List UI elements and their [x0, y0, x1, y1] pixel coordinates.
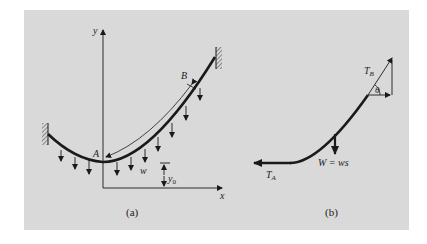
cable-curve — [48, 57, 215, 162]
caption-b: (b) — [325, 206, 338, 219]
tension-B-label: TB — [364, 65, 375, 78]
point-B-label: B — [181, 70, 187, 81]
cable-diagram: y x y0 — [0, 0, 427, 244]
angle-theta-label: θ — [375, 85, 380, 95]
caption-a: (a) — [126, 206, 139, 219]
load-label-w: w — [140, 165, 147, 176]
y0-label: y0 — [167, 173, 176, 186]
right-support-hatch — [216, 47, 222, 69]
part-a: y x y0 — [42, 25, 225, 219]
left-support-hatch — [42, 123, 48, 145]
weight-label: W = ws — [318, 157, 349, 168]
y-axis-label: y — [92, 25, 98, 36]
distributed-load-arrows — [61, 88, 200, 175]
tension-A-label: TA — [266, 169, 277, 182]
x-axis-label: x — [219, 190, 225, 201]
arc-length-arrow — [106, 84, 192, 157]
point-A-label: A — [92, 148, 100, 159]
part-b: TA W = ws θ TB (b) — [254, 58, 392, 219]
cable-segment — [290, 95, 368, 163]
